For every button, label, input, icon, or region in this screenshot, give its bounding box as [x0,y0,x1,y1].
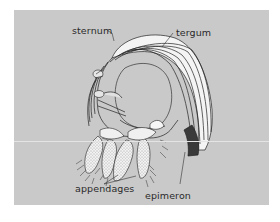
epimeron-leader [180,152,185,184]
label-epimeron: epimeron [145,190,191,201]
scan-artifact-line [14,141,269,142]
appendages [76,120,168,187]
sternum-frame [88,58,178,138]
label-tergum: tergum [176,27,211,38]
label-sternum: sternum [72,25,112,36]
crustacean-segment-illustration [0,0,280,222]
label-appendages: appendages [75,183,134,194]
